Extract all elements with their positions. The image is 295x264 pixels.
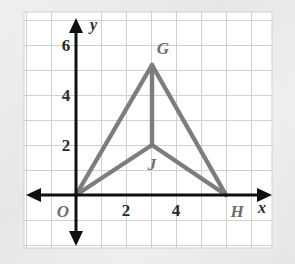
coordinate-plane-figure: y x 2 4 2 4 6 O G J H — [0, 0, 295, 264]
y-tick-label-4: 4 — [62, 86, 71, 105]
y-tick-label-6: 6 — [62, 36, 71, 55]
x-tick-label-2: 2 — [122, 201, 131, 220]
point-label-G: G — [157, 39, 170, 58]
x-tick-label-4: 4 — [172, 201, 181, 220]
point-label-O: O — [57, 202, 69, 221]
point-label-H: H — [229, 202, 244, 221]
y-axis-label: y — [88, 16, 98, 34]
y-tick-label-2: 2 — [62, 136, 71, 155]
point-label-J: J — [147, 155, 157, 174]
x-axis-label: x — [257, 199, 266, 216]
